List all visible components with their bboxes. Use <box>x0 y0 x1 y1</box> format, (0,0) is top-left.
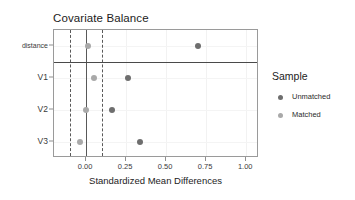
page-title: Covariate Balance <box>53 11 149 25</box>
y-axis-tick-mark <box>49 141 53 142</box>
data-point <box>137 139 143 145</box>
x-axis-tick-mark <box>205 157 206 161</box>
legend-key <box>272 95 289 100</box>
x-axis-tick-label: 0.75 <box>198 162 213 172</box>
x-axis-tick-mark <box>245 157 246 161</box>
x-axis-tick-label: 0.50 <box>158 162 173 172</box>
x-axis-tick-label: 0.25 <box>118 162 133 172</box>
legend-dot-icon <box>278 113 283 118</box>
reference-line-threshold <box>102 30 103 156</box>
legend-item-matched[interactable]: Matched <box>272 108 354 122</box>
x-axis-tick-mark <box>125 157 126 161</box>
data-point <box>195 43 201 49</box>
covariate-balance-plot: Covariate Balance distanceV1V2V3 0.000.2… <box>0 0 355 200</box>
legend-title: Sample <box>272 70 354 83</box>
y-axis-tick-label: distance <box>22 41 48 50</box>
data-point <box>125 75 131 81</box>
x-axis-tick-mark <box>85 157 86 161</box>
legend-key <box>272 113 289 118</box>
x-axis-tick-label: 1.00 <box>238 162 253 172</box>
gridline-horizontal <box>54 142 257 143</box>
x-axis-tick-mark <box>165 157 166 161</box>
data-point <box>109 107 115 113</box>
y-axis-tick-mark <box>49 45 53 46</box>
legend-item-label: Matched <box>292 110 321 120</box>
gridline-vertical <box>126 30 127 156</box>
legend-dot-icon <box>278 95 283 100</box>
data-point <box>77 139 83 145</box>
x-axis-title: Standardized Mean Differences <box>53 175 258 187</box>
y-axis-tick-label: V1 <box>38 72 48 82</box>
legend-item-unmatched[interactable]: Unmatched <box>272 90 354 104</box>
y-axis-tick-label: V3 <box>38 136 48 146</box>
data-point <box>83 107 89 113</box>
legend: Sample UnmatchedMatched <box>272 70 354 126</box>
legend-items: UnmatchedMatched <box>272 90 354 122</box>
plot-panel <box>53 29 258 157</box>
y-axis-tick-mark <box>49 109 53 110</box>
x-axis-tick-label: 0.00 <box>78 162 93 172</box>
reference-line-threshold <box>70 30 71 156</box>
gridline-vertical <box>206 30 207 156</box>
data-point <box>85 43 91 49</box>
gridline-horizontal <box>54 78 257 79</box>
y-axis-tick-label: V2 <box>38 104 48 114</box>
gridline-vertical <box>246 30 247 156</box>
row-separator <box>54 62 257 63</box>
data-point <box>91 75 97 81</box>
gridline-vertical <box>166 30 167 156</box>
y-axis-tick-mark <box>49 77 53 78</box>
legend-item-label: Unmatched <box>292 92 330 102</box>
